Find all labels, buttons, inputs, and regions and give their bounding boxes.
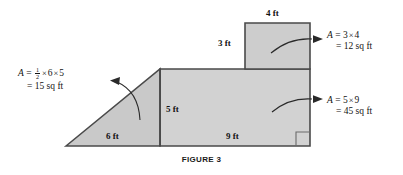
dimension-label-triangle-base: 6 ft bbox=[106, 131, 119, 142]
triangle-area-label: A = 12×6×5 = 15 sq ft bbox=[18, 67, 64, 92]
main-rectangle-area-label: A = 5×9 = 45 sq ft bbox=[327, 95, 372, 117]
triangle-area-result: = 15 sq ft bbox=[18, 81, 64, 92]
dimension-label-small-rect-width: 4 ft bbox=[266, 8, 279, 19]
dimension-label-main-rect-width: 9 ft bbox=[226, 131, 239, 142]
main-rectangle-leader-arrowhead bbox=[313, 95, 323, 103]
main-rectangle-area-equals: = bbox=[335, 95, 340, 105]
main-rectangle-area-result: = 45 sq ft bbox=[327, 106, 372, 117]
main-rectangle-area-variable: A bbox=[327, 95, 333, 105]
small-rectangle-factor-2: 4 bbox=[354, 30, 359, 40]
fraction-denominator: 2 bbox=[35, 73, 40, 81]
triangle-factor-1: 6 bbox=[48, 68, 53, 78]
small-rectangle-shape bbox=[245, 23, 310, 69]
multiply-symbol-1: × bbox=[41, 68, 48, 78]
triangle-leader-arrowhead bbox=[110, 77, 120, 85]
figure-caption: FIGURE 3 bbox=[0, 155, 403, 164]
small-rectangle-area-equals: = bbox=[335, 30, 340, 40]
main-rectangle-factor-1: 5 bbox=[343, 95, 348, 105]
small-rectangle-area-result: = 12 sq ft bbox=[327, 41, 372, 52]
triangle-area-variable: A bbox=[18, 68, 24, 78]
small-rectangle-factor-1: 3 bbox=[343, 30, 348, 40]
dimension-label-small-rect-height: 3 ft bbox=[218, 38, 231, 49]
dimension-label-main-rect-height: 5 ft bbox=[166, 104, 179, 115]
one-half-fraction: 12 bbox=[35, 67, 40, 81]
small-rectangle-area-label: A = 3×4 = 12 sq ft bbox=[327, 30, 372, 52]
triangle-area-equals: = bbox=[26, 68, 31, 78]
triangle-factor-2: 5 bbox=[59, 68, 64, 78]
main-rectangle-factor-2: 9 bbox=[354, 95, 359, 105]
small-rectangle-leader-arrowhead bbox=[313, 35, 323, 43]
figure-container: A = 12×6×5 = 15 sq ft A = 3×4 = 12 sq ft… bbox=[0, 0, 403, 175]
small-rectangle-area-variable: A bbox=[327, 30, 333, 40]
